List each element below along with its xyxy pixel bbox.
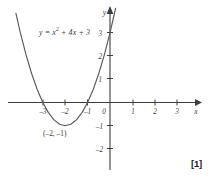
x-tick-label-3: 3 xyxy=(174,108,179,116)
equation-annotation: y = x2 + 4x + 3 xyxy=(39,26,90,37)
x-tick-label-1: 1 xyxy=(131,108,135,116)
parabola-plot: –3 –2 –1 0 1 2 3 3 2 1 –1 –2 x y xyxy=(0,0,208,176)
x-tick-label-2: 2 xyxy=(153,108,157,116)
y-axis-arrow xyxy=(107,6,114,14)
figure-container: –3 –2 –1 0 1 2 3 3 2 1 –1 –2 x y y = x2 … xyxy=(0,0,208,176)
y-axis-label: y xyxy=(102,8,107,17)
equation-rest: + 4x + 3 xyxy=(59,28,90,37)
vertex-annotation: (–2, –1) xyxy=(43,129,66,138)
x-axis-arrow xyxy=(195,99,202,106)
x-tick-label--2: –2 xyxy=(60,108,69,116)
y-tick-label-1: 1 xyxy=(98,76,102,84)
y-tick-label-3: 3 xyxy=(97,30,102,38)
x-axis-label: x xyxy=(193,107,198,116)
y-tick-label--1: –1 xyxy=(95,123,103,131)
origin-label: 0 xyxy=(102,108,106,116)
y-tick-label--2: –2 xyxy=(95,146,104,154)
x-tick-label--3: –3 xyxy=(38,108,47,116)
marks-badge: [1] xyxy=(191,158,202,169)
equation-lhs: y = xyxy=(39,28,52,37)
y-tick-label-2: 2 xyxy=(98,53,102,61)
